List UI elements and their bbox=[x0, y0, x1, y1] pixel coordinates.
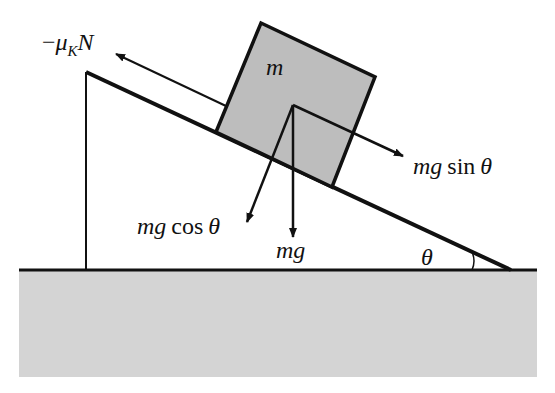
normal-mg: mg bbox=[137, 213, 166, 239]
parallel-force-label: mgsinθ bbox=[413, 153, 492, 179]
mass-label: m bbox=[266, 54, 283, 80]
normal-theta: θ bbox=[208, 213, 220, 239]
normal-cos: cos bbox=[171, 213, 203, 239]
friction-n: N bbox=[77, 29, 96, 55]
ground bbox=[19, 270, 537, 377]
friction-arrow bbox=[116, 54, 226, 106]
friction-mu: μ bbox=[55, 29, 68, 55]
parallel-mg: mg bbox=[413, 153, 442, 179]
friction-label: −μKN bbox=[42, 29, 96, 59]
angle-label: θ bbox=[421, 244, 433, 270]
parallel-sin: sin bbox=[447, 153, 475, 179]
angle-arc bbox=[472, 252, 474, 270]
parallel-theta: θ bbox=[480, 153, 492, 179]
friction-minus: − bbox=[42, 29, 56, 55]
weight-label: mg bbox=[276, 237, 305, 263]
normal-component-label: mgcosθ bbox=[137, 213, 220, 239]
inclined-plane-diagram: m −μKN mgsinθ mgcosθ mg θ bbox=[0, 0, 555, 393]
